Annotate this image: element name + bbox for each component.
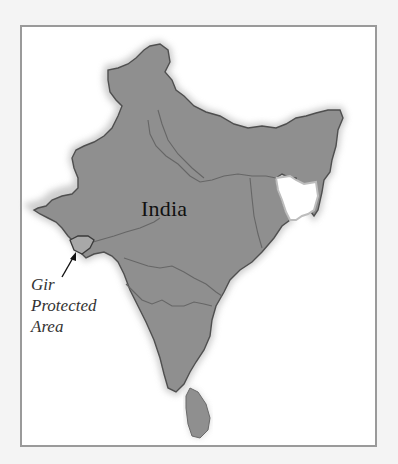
gir-protected-area-label: Gir Protected Area <box>31 274 96 337</box>
gir-label-line-3: Area <box>31 316 96 337</box>
gir-label-line-2: Protected <box>31 295 96 316</box>
gir-label-line-1: Gir <box>31 274 96 295</box>
country-label-india: India <box>141 196 187 222</box>
sri-lanka-landmass <box>186 388 210 438</box>
india-map <box>0 0 398 464</box>
